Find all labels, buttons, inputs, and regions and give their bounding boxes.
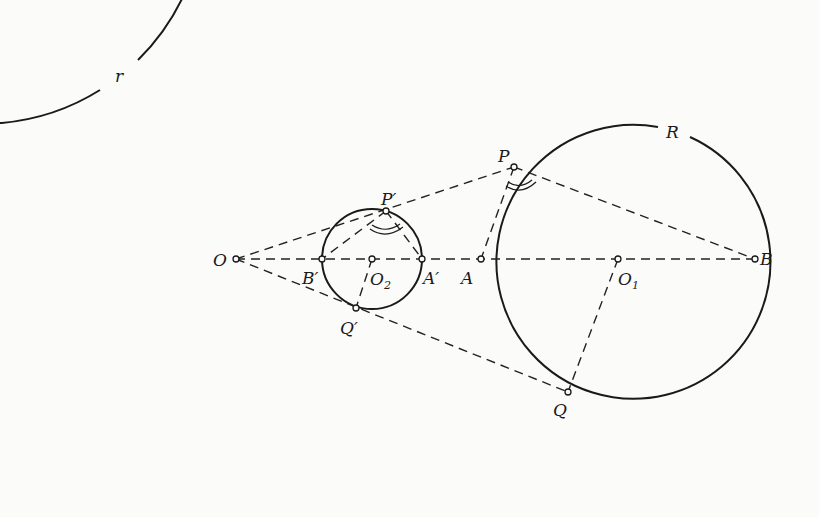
point-O1 bbox=[615, 256, 621, 262]
point-B-prime bbox=[319, 256, 325, 262]
label-Q-prime: Q′ bbox=[340, 318, 358, 338]
label-r: r bbox=[115, 66, 124, 86]
point-A-prime bbox=[419, 256, 425, 262]
point-Q bbox=[565, 389, 571, 395]
point-O bbox=[233, 256, 239, 262]
label-A-prime: A′ bbox=[421, 268, 439, 288]
line-PB bbox=[514, 167, 755, 259]
label-B: B bbox=[759, 249, 773, 269]
line-PpBp bbox=[322, 211, 386, 259]
point-A bbox=[478, 256, 484, 262]
inversion-diagram: r R O O1 O2 A B A′ B′ P Q P′ Q′ bbox=[0, 0, 819, 517]
label-P: P bbox=[497, 146, 510, 166]
label-Q: Q bbox=[553, 400, 567, 420]
point-B bbox=[752, 256, 758, 262]
line-O1Q bbox=[568, 259, 618, 392]
label-P-prime: P′ bbox=[380, 189, 396, 209]
point-P bbox=[511, 164, 517, 170]
circle-r bbox=[0, 0, 204, 124]
circle-R bbox=[496, 125, 770, 399]
label-O: O bbox=[213, 250, 227, 270]
label-O1: O1 bbox=[618, 269, 639, 292]
label-B-prime: B′ bbox=[301, 268, 318, 288]
label-A: A bbox=[459, 268, 473, 288]
point-Q-prime bbox=[353, 305, 359, 311]
line-OQ bbox=[236, 259, 568, 392]
line-OP bbox=[236, 167, 514, 259]
label-O2: O2 bbox=[370, 269, 391, 292]
label-R: R bbox=[665, 122, 679, 142]
point-O2 bbox=[369, 256, 375, 262]
